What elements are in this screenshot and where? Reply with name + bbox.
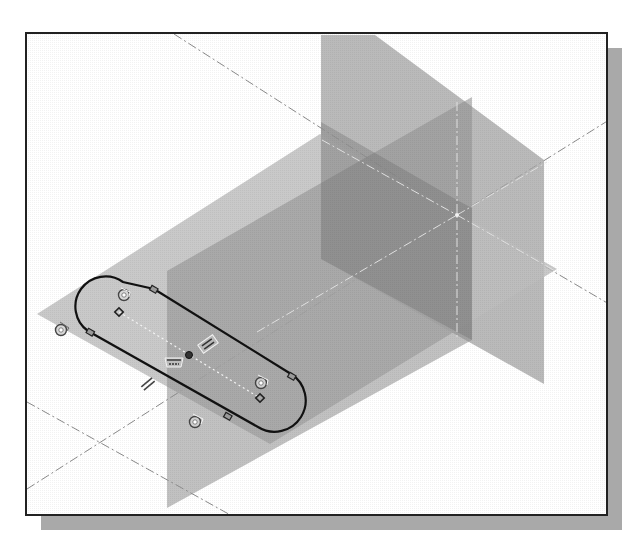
- scene-canvas[interactable]: [27, 34, 606, 514]
- frame-shadow-right: [606, 48, 622, 530]
- origin-point[interactable]: [455, 213, 459, 217]
- frame-shadow-bottom: [41, 514, 622, 530]
- viewport-frame[interactable]: Slot sketch on datum plane with constrai…: [25, 32, 608, 516]
- sketch-midpoint[interactable]: [186, 352, 193, 359]
- horizontal-icon[interactable]: [165, 358, 183, 367]
